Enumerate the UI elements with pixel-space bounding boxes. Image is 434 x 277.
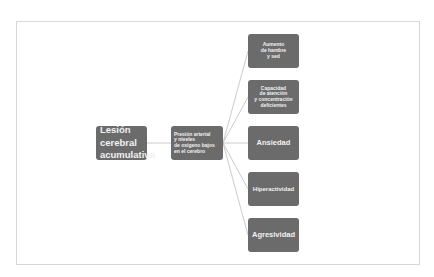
node-outcome-label: Capacidad de atención y concentración de… xyxy=(254,86,292,109)
node-outcome-agresividad: Agresividad xyxy=(248,218,299,252)
node-middle-presion: Presión arterial y niveles de oxígeno ba… xyxy=(171,126,223,160)
node-outcome-ansiedad: Ansiedad xyxy=(248,126,299,160)
node-outcome-label: Aumento de hambre y sed xyxy=(261,42,286,59)
node-outcome-label: Hiperactividad xyxy=(253,186,294,193)
node-outcome-label: Agresividad xyxy=(252,231,295,240)
node-outcome-label: Ansiedad xyxy=(257,139,291,148)
node-outcome-hambre: Aumento de hambre y sed xyxy=(248,34,299,68)
node-root-label: Lesión cerebral acumulativa xyxy=(100,124,155,161)
node-middle-label: Presión arterial y niveles de oxígeno ba… xyxy=(174,132,215,155)
node-root-lesion: Lesión cerebral acumulativa xyxy=(96,126,147,160)
node-outcome-atencion: Capacidad de atención y concentración de… xyxy=(248,80,299,114)
node-outcome-hiperactividad: Hiperactividad xyxy=(248,172,299,206)
